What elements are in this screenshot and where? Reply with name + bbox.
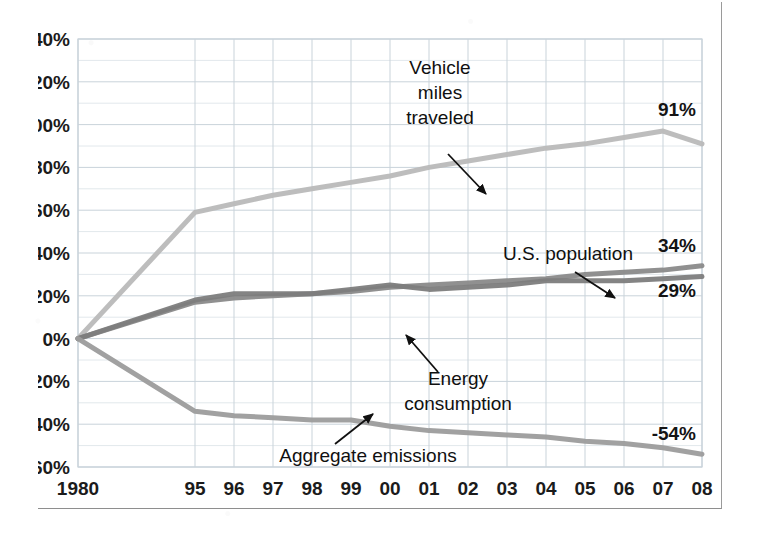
x-tick-label: 07 [652,478,673,499]
figure-frame: 140%120%100%80%60%40%20%0%-20%-40%-60% 1… [38,2,722,509]
series-end-label: 29% [658,280,696,301]
chart-canvas: 140%120%100%80%60%40%20%0%-20%-40%-60% 1… [38,2,722,509]
x-tick-label: 03 [496,478,517,499]
y-tick-label: 20% [38,286,70,307]
line-chart: 140%120%100%80%60%40%20%0%-20%-40%-60% 1… [38,2,721,508]
x-tick-label: 1980 [57,478,99,499]
annotation-label: Aggregate emissions [279,445,456,466]
x-axis-tick-labels: 19809596979899000102030405060708 [57,478,713,499]
y-tick-label: -20% [38,371,70,392]
x-tick-label: 95 [184,478,206,499]
x-tick-label: 02 [457,478,478,499]
x-tick-label: 96 [223,478,244,499]
annotation-leader-arrow [406,335,438,372]
x-tick-label: 08 [691,478,712,499]
series-annotations: VehiclemilestraveledU.S. populationEnerg… [279,57,633,466]
y-tick-label: 60% [38,200,70,221]
x-tick-label: 01 [418,478,440,499]
x-tick-label: 05 [574,478,596,499]
y-tick-label: 0% [43,329,71,350]
annotation-label: U.S. population [503,243,633,264]
y-tick-label: 100% [38,115,70,136]
annotation-label: Energyconsumption [404,368,512,414]
y-tick-label: -40% [38,414,70,435]
x-tick-label: 00 [379,478,400,499]
y-tick-label: 120% [38,72,70,93]
x-tick-label: 97 [262,478,283,499]
y-axis-tick-labels: 140%120%100%80%60%40%20%0%-20%-40%-60% [38,29,70,478]
y-tick-label: -60% [38,457,70,478]
y-tick-label: 140% [38,29,70,50]
y-tick-label: 80% [38,157,70,178]
annotation-label: Vehiclemilestraveled [406,57,474,128]
x-tick-label: 06 [613,478,634,499]
series-end-label: 91% [658,99,696,120]
x-tick-label: 04 [535,478,557,499]
series-end-label: 34% [658,235,696,256]
x-tick-label: 99 [340,478,361,499]
y-tick-label: 40% [38,243,70,264]
x-tick-label: 98 [301,478,322,499]
series-end-label: -54% [652,423,696,444]
